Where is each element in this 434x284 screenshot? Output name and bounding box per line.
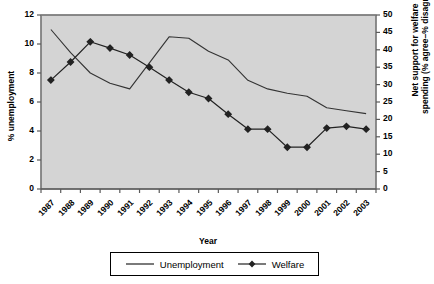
legend-label: Welfare (272, 259, 305, 270)
y-tick-label-left: 10 (0, 38, 34, 48)
legend-item-welfare[interactable]: Welfare (237, 259, 305, 270)
y-tick-label-right: 30 (383, 79, 392, 89)
chart-legend: UnemploymentWelfare (110, 252, 319, 276)
y-tick-label-left: 8 (0, 67, 34, 77)
legend-item-unemployment[interactable]: Unemployment (125, 259, 224, 270)
y-tick-label-right: 50 (383, 9, 392, 19)
y-tick-label-left: 6 (0, 96, 34, 106)
y-tick-label-left: 2 (0, 154, 34, 164)
y-tick-label-right: 10 (383, 148, 392, 158)
legend-label: Unemployment (160, 259, 224, 270)
y-tick-label-right: 5 (383, 166, 388, 176)
y-tick-label-left: 12 (0, 9, 34, 19)
y-tick-label-right: 15 (383, 131, 392, 141)
y-tick-label-right: 45 (383, 26, 392, 36)
y-tick-label-left: 4 (0, 125, 34, 135)
y-tick-label-right: 20 (383, 113, 392, 123)
y-tick-label-right: 0 (383, 183, 388, 193)
legend-line-diamond-icon (237, 259, 267, 269)
y-tick-label-left: 0 (0, 183, 34, 193)
y-tick-label-right: 35 (383, 61, 392, 71)
y-tick-label-right: 25 (383, 96, 392, 106)
y-tick-label-right: 40 (383, 44, 392, 54)
legend-line-icon (125, 259, 155, 269)
